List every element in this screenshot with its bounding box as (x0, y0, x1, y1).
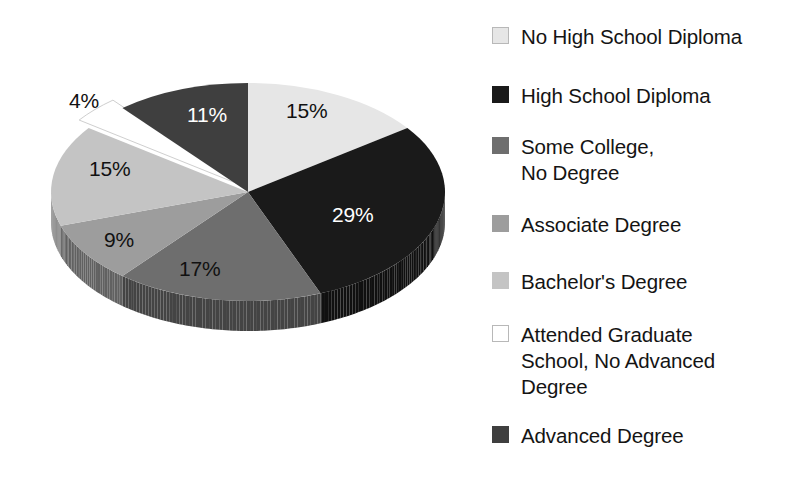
pie-slice-side-2 (192, 297, 195, 328)
pie-slice-side-4 (53, 207, 54, 239)
pie-slice-side-1 (427, 236, 428, 268)
pie-slice-side-1 (322, 292, 325, 323)
pie-slice-side-1 (399, 261, 401, 292)
pie-slice-side-2 (226, 300, 229, 330)
pie-slice-side-1 (432, 229, 433, 261)
pie-slice-side-3 (65, 232, 66, 264)
pie-slice-side-3 (85, 254, 87, 286)
pie-slice-side-2 (183, 295, 186, 326)
legend-item-3[interactable]: Associate Degree (492, 212, 681, 238)
pie-slice-side-2 (257, 301, 260, 331)
pie-slice-side-1 (361, 280, 364, 311)
pie-slice-side-2 (154, 288, 157, 319)
legend-swatch-icon-0 (492, 27, 509, 44)
pie-slice-side-1 (385, 269, 387, 300)
pie-slice-side-1 (364, 279, 367, 310)
pie-slice-side-1 (390, 266, 392, 297)
pie-slice-side-2 (264, 300, 267, 330)
pie-slice-side-2 (254, 301, 257, 331)
pie-slice-side-1 (424, 240, 426, 272)
legend-swatch-icon-3 (492, 215, 509, 232)
pie-slice-side-3 (105, 267, 107, 298)
pie-slice-side-1 (349, 284, 352, 315)
pie-slice-side-2 (304, 296, 307, 327)
pie-slice-side-1 (392, 265, 394, 296)
pie-svg (0, 0, 480, 484)
pie-slice-side-3 (73, 242, 75, 274)
pie-slice-side-2 (122, 276, 123, 306)
legend-item-1[interactable]: High School Diploma (492, 83, 711, 109)
legend-label-0: No High School Diploma (521, 24, 742, 50)
pie-slice-side-2 (179, 294, 182, 325)
pie-slice-side-2 (281, 299, 284, 329)
legend-item-5[interactable]: Attended Graduate School, No Advanced De… (492, 322, 715, 400)
pie-slice-side-1 (397, 262, 399, 293)
pie-slice-side-1 (334, 289, 337, 320)
legend-item-4[interactable]: Bachelor's Degree (492, 269, 687, 295)
legend-item-2[interactable]: Some College, No Degree (492, 134, 654, 186)
pie-slice-side-1 (377, 273, 380, 304)
pie-slice-side-3 (110, 270, 112, 301)
pie-slice-side-2 (314, 294, 317, 325)
legend-item-0[interactable]: No High School Diploma (492, 24, 742, 50)
pie-slice-side-2 (140, 283, 143, 314)
pie-slice-side-2 (236, 301, 239, 331)
pie-slice-side-1 (413, 250, 415, 282)
pie-slice-side-2 (142, 284, 145, 315)
pie-slice-side-2 (137, 282, 140, 313)
pie-slice-side-3 (61, 226, 62, 258)
pie-slice-side-2 (163, 290, 166, 321)
pie-chart-figure: 15%29%17%9%15%4%11% No High School Diplo… (0, 0, 806, 484)
pie-slice-side-4 (54, 211, 55, 243)
pie-slice-side-3 (87, 255, 89, 287)
pie-slice-label-6: 11% (187, 104, 227, 125)
pie-slice-side-1 (436, 222, 437, 254)
pie-slice-side-1 (433, 227, 434, 259)
pie-slice-side-1 (394, 264, 396, 295)
pie-slice-side-3 (78, 247, 80, 279)
pie-slice-side-1 (358, 281, 361, 312)
legend-label-1: High School Diploma (521, 83, 711, 109)
pie-slice-side-4 (56, 217, 57, 249)
pie-slice-side-1 (405, 256, 407, 288)
pie-slice-side-2 (233, 301, 236, 331)
pie-slice-side-2 (157, 289, 160, 320)
pie-slice-side-3 (112, 271, 115, 302)
pie-slice-side-2 (186, 295, 189, 326)
pie-slice-label-2: 17% (179, 258, 220, 279)
legend-item-6[interactable]: Advanced Degree (492, 423, 684, 449)
pie-slice-side-1 (380, 272, 383, 303)
pie-slice-side-1 (372, 275, 375, 306)
pie-slice-side-3 (82, 250, 84, 282)
pie-slice-side-1 (387, 268, 389, 299)
pie-slice-side-1 (419, 245, 421, 277)
pie-slice-side-1 (440, 215, 441, 247)
pie-slice-side-2 (291, 298, 294, 328)
pie-slice-side-2 (223, 300, 226, 330)
pie-slice-side-1 (325, 292, 328, 323)
pie-slice-side-2 (243, 301, 246, 331)
pie-slice-side-1 (409, 253, 411, 285)
pie-slice-side-1 (367, 278, 370, 309)
pie-slice-side-3 (62, 228, 63, 260)
legend-swatch-icon-5 (492, 325, 509, 342)
pie-slice-side-2 (308, 295, 311, 326)
pie-slice-label-5: 4% (69, 90, 99, 111)
pie-slice-side-1 (438, 218, 439, 250)
pie-slice-side-1 (441, 213, 442, 245)
pie-slice-side-3 (115, 272, 118, 303)
pie-slice-side-2 (131, 280, 134, 311)
legend-label-5: Attended Graduate School, No Advanced De… (521, 322, 715, 400)
pie-slice-side-1 (420, 243, 422, 275)
pie-slice-side-3 (103, 265, 105, 296)
pie-slice-side-2 (206, 298, 209, 328)
pie-slice-side-2 (260, 301, 263, 331)
pie-slice-side-1 (382, 270, 384, 301)
pie-slice-side-1 (439, 217, 440, 249)
pie-slice-side-4 (59, 222, 60, 254)
pie-slice-side-1 (442, 209, 443, 241)
pie-slice-side-2 (277, 299, 280, 329)
pie-slice-side-1 (411, 251, 413, 283)
pie-slice-side-2 (219, 300, 222, 330)
pie-slice-side-4 (58, 220, 59, 252)
